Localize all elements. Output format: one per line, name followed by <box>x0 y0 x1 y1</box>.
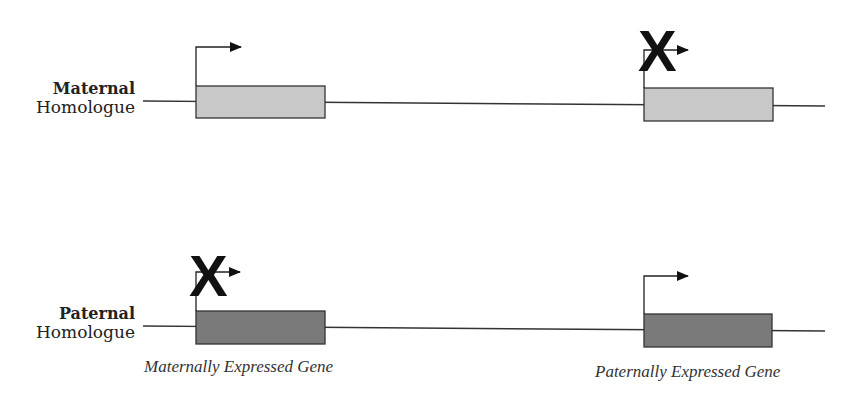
maternally-expressed-gene-caption: Maternally Expressed Gene <box>144 357 333 377</box>
maternal-right-gene-box <box>644 88 773 121</box>
paternally-expressed-gene-caption: Paternally Expressed Gene <box>595 362 780 382</box>
maternal-label-normal: Homologue <box>20 98 135 118</box>
paternal-right-gene-box <box>644 314 772 347</box>
paternal-label-normal: Homologue <box>20 323 135 343</box>
paternal-homologue-label: Paternal Homologue <box>20 305 135 343</box>
maternal-homologue-label: Maternal Homologue <box>20 80 135 118</box>
maternal-label-bold: Maternal <box>20 80 135 98</box>
maternal-left-gene-box <box>196 86 325 118</box>
paternal-left-silenced-x-icon: X <box>189 247 228 305</box>
paternal-right-promoter-arrow-icon <box>644 276 688 314</box>
paternal-label-bold: Paternal <box>20 305 135 323</box>
paternal-left-gene-box <box>196 311 325 344</box>
maternal-left-promoter-arrow-icon <box>196 47 241 86</box>
maternal-right-silenced-x-icon: X <box>638 22 677 80</box>
imprinting-diagram: Maternal Homologue Paternal Homologue X … <box>0 0 861 395</box>
